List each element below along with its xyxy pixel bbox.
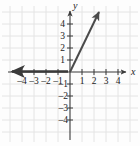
x-tick-label: –2	[40, 76, 51, 86]
y-tick-label: 1	[60, 55, 65, 65]
x-tick-label: 1	[80, 76, 85, 86]
y-tick-label: 3	[60, 31, 65, 41]
x-tick-label: 3	[104, 76, 109, 86]
graph-canvas: –4 –3 –2 –1 1 2 3 4 4 3 2 1 –1 –2 –3 –4 …	[0, 0, 140, 146]
x-tick-label: –3	[28, 76, 39, 86]
y-tick-label: –3	[58, 103, 69, 113]
y-axis-label: y	[72, 0, 78, 11]
x-tick-label: 2	[92, 76, 97, 86]
y-tick-label: –4	[58, 115, 69, 125]
y-tick-label: 4	[60, 19, 65, 29]
y-tick-label: –2	[58, 91, 69, 101]
x-axis-label: x	[130, 66, 136, 77]
x-tick-label: –4	[16, 76, 27, 86]
x-tick-label: 4	[116, 76, 121, 86]
y-tick-label: –1	[58, 79, 69, 89]
y-tick-label: 2	[60, 43, 65, 53]
coordinate-plane-graph: –4 –3 –2 –1 1 2 3 4 4 3 2 1 –1 –2 –3 –4 …	[0, 0, 140, 146]
